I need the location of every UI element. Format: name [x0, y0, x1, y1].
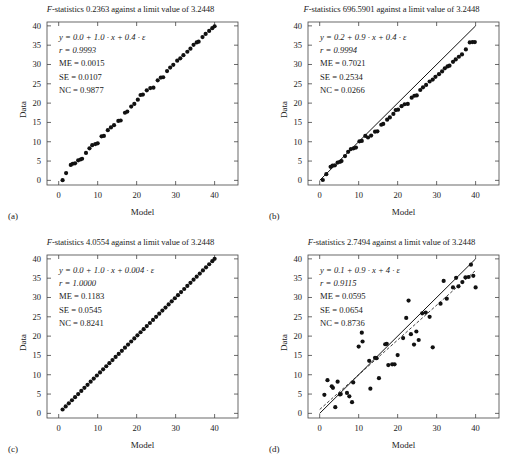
data-point [120, 349, 124, 353]
data-point [391, 112, 395, 116]
x-tick-label: 30 [171, 423, 180, 433]
data-point [104, 364, 108, 368]
annotation-equation: y = 0.1 + 0.9 · x + 4 · ε [320, 264, 400, 277]
data-point [388, 115, 392, 119]
panel-c: F-statistics 4.0554 against a limit valu… [0, 233, 261, 466]
y-tick-label: 35 [33, 273, 42, 283]
annotation-se: SE = 0.0654 [320, 304, 400, 317]
annotation-r: r = 0.9994 [320, 44, 406, 57]
figure-four-panel-scatter: F-statistics 0.2363 against a limit valu… [0, 0, 522, 466]
data-point [112, 123, 116, 127]
data-point [377, 376, 381, 380]
data-point [82, 386, 86, 390]
annotation-equation: y = 0.0 + 1.0 · x + 0.4 · ε [59, 31, 145, 44]
data-point [375, 356, 379, 360]
data-point [447, 64, 451, 68]
data-point [64, 171, 68, 175]
data-point [375, 129, 379, 133]
data-point [469, 263, 473, 267]
data-point [171, 63, 175, 67]
data-point [173, 296, 177, 300]
data-point [80, 157, 84, 161]
y-tick-label: 10 [33, 370, 42, 380]
data-point [60, 407, 64, 411]
data-point [396, 353, 400, 357]
data-point [167, 302, 171, 306]
data-point [160, 309, 164, 313]
y-tick-label: 5 [298, 156, 302, 166]
y-tick-label: 35 [33, 40, 42, 50]
data-point [179, 290, 183, 294]
y-tick-label: 0 [298, 408, 302, 418]
x-tick-label: 0 [318, 423, 322, 433]
x-tick-label: 40 [471, 423, 480, 433]
y-tick-label: 25 [33, 312, 42, 322]
data-point [339, 392, 343, 396]
data-point [165, 69, 169, 73]
panel-a: F-statistics 0.2363 against a limit valu… [0, 0, 261, 233]
data-point [92, 377, 96, 381]
data-point [414, 329, 418, 333]
statistics-annotation: y = 0.1 + 0.9 · x + 4 · εr = 0.9115ME = … [320, 264, 400, 330]
data-point [471, 274, 475, 278]
data-point [181, 53, 185, 57]
y-axis-label: Data [279, 334, 289, 351]
data-point [154, 315, 158, 319]
data-point [451, 285, 455, 289]
data-point [460, 52, 464, 56]
data-point [385, 342, 389, 346]
x-tick-label: 10 [354, 423, 363, 433]
data-point [386, 363, 390, 367]
data-point [197, 40, 201, 44]
panel-letter: (c) [8, 444, 18, 454]
data-point [200, 35, 204, 39]
y-tick-label: 15 [294, 350, 303, 360]
data-point [185, 284, 189, 288]
data-point [473, 40, 477, 44]
y-tick-label: 15 [33, 117, 42, 127]
x-tick-label: 10 [93, 190, 102, 200]
data-point [201, 268, 205, 272]
x-tick-label: 20 [393, 423, 402, 433]
data-point [360, 139, 364, 143]
statistics-annotation: y = 0.2 + 0.9 · x + 0.4 · εr = 0.9994ME … [320, 31, 406, 97]
y-tick-label: 40 [33, 21, 42, 31]
x-axis-label: Model [47, 440, 238, 450]
data-point [76, 392, 80, 396]
data-point [354, 145, 358, 149]
data-point [163, 305, 167, 309]
data-point [129, 339, 133, 343]
x-tick-label: 30 [432, 190, 441, 200]
x-tick-label: 30 [432, 423, 441, 433]
data-point [213, 24, 217, 28]
data-point [412, 343, 416, 347]
y-tick-label: 15 [33, 350, 42, 360]
data-point [119, 118, 123, 122]
data-point [89, 380, 93, 384]
panel-letter: (d) [269, 444, 280, 454]
data-point [185, 50, 189, 54]
data-point [369, 133, 373, 137]
y-tick-label: 0 [37, 175, 41, 185]
data-point [207, 262, 211, 266]
data-point [431, 345, 435, 349]
y-tick-label: 40 [294, 254, 303, 264]
data-point [60, 178, 64, 182]
data-point [331, 386, 335, 390]
data-point [438, 302, 442, 306]
data-point [433, 75, 437, 79]
y-tick-label: 30 [294, 59, 303, 69]
data-point [347, 394, 351, 398]
y-tick-label: 35 [294, 273, 303, 283]
data-point [445, 297, 449, 301]
data-point [442, 279, 446, 283]
data-point [161, 75, 165, 79]
annotation-equation: y = 0.0 + 1.0 · x + 0.004 · ε [59, 264, 154, 277]
data-point [454, 276, 458, 280]
data-point [456, 284, 460, 288]
data-point [138, 330, 142, 334]
x-axis-label: Model [47, 207, 238, 217]
annotation-r: r = 0.9115 [320, 277, 400, 290]
y-axis-label: Data [18, 334, 28, 351]
data-point [428, 315, 432, 319]
